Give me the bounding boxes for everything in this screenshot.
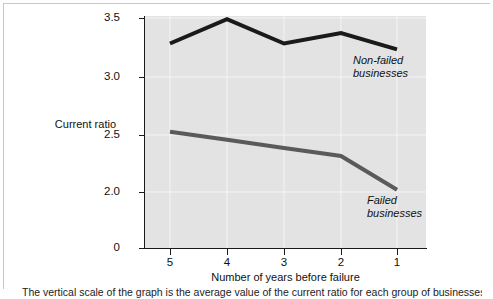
series-label-failed: Failed businesses xyxy=(367,194,422,219)
y-tick-label-0: 0 xyxy=(0,242,120,253)
x-tick-label-2: 2 xyxy=(326,256,356,268)
x-axis-line xyxy=(144,248,427,249)
x-axis-title: Number of years before failure xyxy=(145,271,426,283)
figure-frame-top-border xyxy=(3,3,490,4)
y-tick-label-2.5: 2.5 xyxy=(0,129,120,140)
y-axis-line xyxy=(144,16,145,249)
y-tick-mark-2.5 xyxy=(139,135,145,136)
x-tick-mark-5 xyxy=(170,249,171,255)
y-tick-mark-3.5 xyxy=(139,18,145,19)
y-tick-label-3.5: 3.5 xyxy=(0,12,120,23)
x-tick-label-4: 4 xyxy=(212,256,242,268)
x-tick-mark-4 xyxy=(227,249,228,255)
figure-caption: The vertical scale of the graph is the a… xyxy=(22,286,482,299)
x-tick-mark-2 xyxy=(341,249,342,255)
y-tick-mark-2.0 xyxy=(139,192,145,193)
y-tick-label-3.0: 3.0 xyxy=(0,71,120,82)
x-tick-label-1: 1 xyxy=(382,256,412,268)
series-label-non-failed: Non-failed businesses xyxy=(353,54,408,79)
x-tick-label-5: 5 xyxy=(155,256,185,268)
y-tick-mark-3.0 xyxy=(139,77,145,78)
y-tick-mark-0 xyxy=(139,248,145,249)
x-tick-mark-1 xyxy=(397,249,398,255)
y-tick-label-2.0: 2.0 xyxy=(0,186,120,197)
x-tick-mark-3 xyxy=(284,249,285,255)
y-axis-title: Current ratio xyxy=(50,118,116,131)
x-tick-label-3: 3 xyxy=(269,256,299,268)
